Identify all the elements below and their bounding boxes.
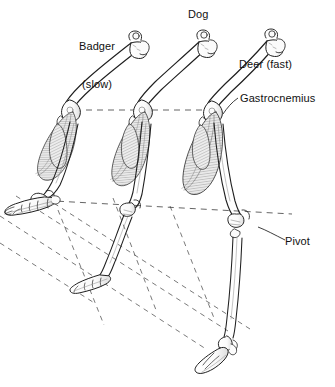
label-pivot: Pivot (285, 235, 310, 248)
label-gastrocnemius: Gastrocnemius (240, 92, 315, 105)
label-badger: Badger (slow) (79, 15, 115, 103)
label-deer: Deer (fast) (239, 58, 292, 71)
label-badger-line1: Badger (79, 40, 115, 53)
label-badger-line2: (slow) (79, 78, 115, 91)
label-dog: Dog (188, 8, 208, 21)
